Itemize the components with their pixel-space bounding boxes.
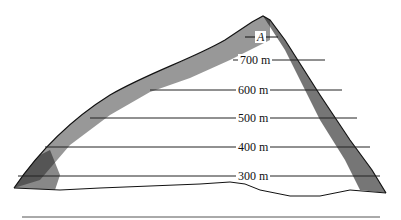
mountain-diagram	[0, 0, 401, 220]
contour-label: 700 m	[238, 54, 272, 66]
contour-label: 600 m	[236, 84, 270, 96]
contour-label: 400 m	[236, 141, 270, 153]
mountain-silhouette	[0, 0, 401, 220]
point-a-label: A	[255, 31, 266, 43]
contour-label: 300 m	[236, 170, 270, 182]
contour-label: 500 m	[236, 112, 270, 124]
